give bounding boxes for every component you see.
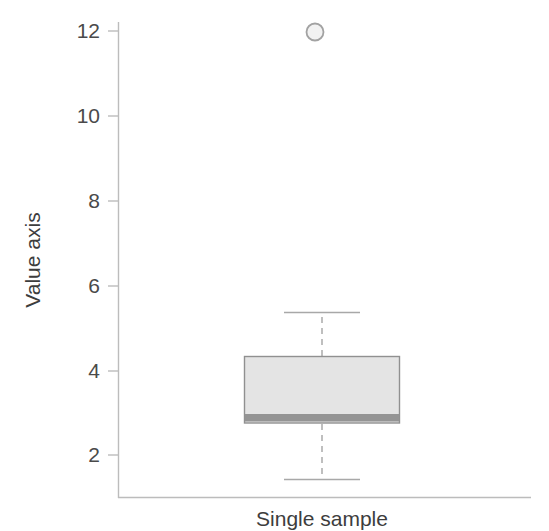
y-axis-tick-labels: 12 10 8 6 4 2 (77, 19, 101, 466)
y-tick-label-4: 4 (88, 359, 100, 382)
y-tick-label-12: 12 (77, 19, 100, 42)
x-axis-title: Single sample (256, 507, 388, 530)
y-axis-title: Value axis (21, 212, 44, 307)
y-tick-label-6: 6 (88, 274, 100, 297)
figure-container: 12 10 8 6 4 2 Value axis S (0, 0, 549, 531)
box-iqr (245, 357, 400, 424)
box-plot-series (245, 24, 400, 480)
outlier-point (307, 24, 324, 41)
y-tick-label-10: 10 (77, 104, 100, 127)
axis-spines (118, 22, 531, 498)
y-tick-label-2: 2 (88, 443, 100, 466)
y-tick-label-8: 8 (88, 189, 100, 212)
y-axis-ticks (108, 31, 118, 455)
box-plot-chart: 12 10 8 6 4 2 Value axis S (0, 0, 549, 531)
median-line (245, 414, 399, 422)
